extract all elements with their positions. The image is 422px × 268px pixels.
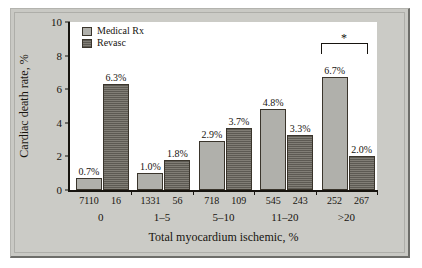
significance-asterisk: * [341,32,347,44]
bar-value-label: 3.7% [228,117,249,127]
x-axis-category-label: 1–5 [154,212,171,223]
bar-group: 2.9%3.7% [193,22,254,190]
x-axis-sample-size: 16 [111,196,121,206]
x-axis-sample-size: 109 [231,196,246,206]
x-axis-sample-size: 56 [172,196,182,206]
bar-medical-rx[interactable]: 1.0% [137,173,163,190]
bar-medical-rx[interactable]: 4.8% [260,109,286,190]
x-axis-sample-size: 243 [293,196,308,206]
x-axis-sample-size: 545 [266,196,281,206]
x-axis-tick-mark [316,190,317,195]
x-axis-tick-mark [377,190,378,195]
bar-revasc[interactable]: 3.3% [287,135,313,190]
x-axis-sample-size: 252 [327,196,342,206]
bar-revasc[interactable]: 2.0% [349,156,375,190]
bar-value-label: 1.8% [167,149,188,159]
bar-value-label: 0.7% [79,167,100,177]
bar-value-label: 6.3% [106,73,127,83]
bar-value-label: 2.0% [351,145,372,155]
bar-group: 1.0%1.8% [131,22,192,190]
bar-revasc[interactable]: 3.7% [226,128,252,190]
bar-revasc[interactable]: 1.8% [164,160,190,190]
plot-area: Medical Rx Revasc 0246810 71101601331561… [68,22,377,192]
bar-value-label: 1.0% [140,162,161,172]
bar-group: 0.7%6.3% [70,22,131,190]
x-axis-sample-size: 267 [354,196,369,206]
x-axis-category-label: 11–20 [271,212,298,223]
x-axis-tick-mark [254,190,255,195]
bar-medical-rx[interactable]: 2.9% [199,141,225,190]
bar-revasc[interactable]: 6.3% [103,84,129,190]
x-axis-category-label: 5–10 [213,212,235,223]
y-axis-title: Cardiac death rate, % [17,54,32,157]
x-axis-title: Total myocardium ischemic, % [149,230,299,245]
bar-medical-rx[interactable]: 6.7% [322,77,348,190]
bar-group: 4.8%3.3% [254,22,315,190]
bar-medical-rx[interactable]: 0.7% [76,178,102,190]
x-axis-tick-mark [193,190,194,195]
bar-value-label: 2.9% [201,130,222,140]
x-axis-category-label: >20 [338,212,355,223]
bar-value-label: 3.3% [290,124,311,134]
x-axis-tick-mark [131,190,132,195]
x-axis-sample-size: 718 [204,196,219,206]
chart-figure: Cardiac death rate, % Medical Rx Revasc … [0,0,422,268]
bar-value-label: 4.8% [263,98,284,108]
x-axis-sample-size: 7110 [79,196,99,206]
x-axis-sample-size: 1331 [140,196,160,206]
x-axis-category-label: 0 [98,212,104,223]
bar-value-label: 6.7% [324,66,345,76]
